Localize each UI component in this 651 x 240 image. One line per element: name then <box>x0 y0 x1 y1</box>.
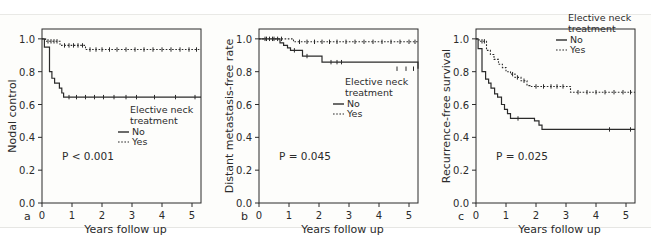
legend-title-line1: Elective neck <box>130 104 194 115</box>
y-tick-label: 1.0 <box>453 34 469 45</box>
p-value-annotation: P = 0.045 <box>279 150 331 162</box>
x-tick-label: 5 <box>406 210 412 221</box>
legend-title-line2: treatment <box>568 23 616 34</box>
x-tick-label: 5 <box>189 210 195 221</box>
x-tick-label: 1 <box>503 210 509 221</box>
y-tick-label: 0.8 <box>453 67 469 78</box>
x-tick-label: 2 <box>316 210 322 221</box>
y-tick-label: 1.0 <box>236 34 252 45</box>
y-tick-label: 0.8 <box>19 67 35 78</box>
x-tick-label: 4 <box>159 210 165 221</box>
x-tick-label: 2 <box>533 210 539 221</box>
x-tick-label: 4 <box>593 210 599 221</box>
x-tick-label: 3 <box>346 210 352 221</box>
y-tick-label: 0.0 <box>236 198 252 209</box>
x-axis-title: Years follow up <box>517 223 600 236</box>
y-axis-title: Nodal control <box>6 79 19 152</box>
y-tick-label: 1.0 <box>19 34 35 45</box>
y-tick-label: 0.6 <box>19 100 35 111</box>
panel-plot-a: 0.00.20.40.60.81.0012345Years follow upN… <box>0 0 217 240</box>
y-axis-title: Recurrence-free survival <box>440 49 453 183</box>
plot-frame <box>476 29 635 203</box>
panel-plot-b: 0.00.20.40.60.81.0012345Years follow upD… <box>217 0 434 240</box>
legend-label-yes: Yes <box>131 136 147 147</box>
legend: Elective necktreatmentNoYes <box>556 12 632 55</box>
x-tick-label: 1 <box>69 210 75 221</box>
y-tick-label: 0.4 <box>453 132 469 143</box>
x-tick-label: 0 <box>39 210 45 221</box>
y-tick-label: 0.8 <box>236 67 252 78</box>
x-axis-title: Years follow up <box>83 223 166 236</box>
y-tick-label: 0.2 <box>19 165 35 176</box>
x-axis-title: Years follow up <box>300 223 383 236</box>
legend-title-line2: treatment <box>345 87 393 98</box>
legend-title-line1: Elective neck <box>568 12 632 23</box>
y-tick-label: 0.2 <box>453 165 469 176</box>
panel-letter: b <box>241 210 248 223</box>
x-tick-label: 3 <box>129 210 135 221</box>
panel-c: 0.00.20.40.60.81.0012345Years follow upR… <box>434 0 651 240</box>
y-tick-label: 0.6 <box>236 100 252 111</box>
x-tick-label: 0 <box>473 210 479 221</box>
x-tick-label: 3 <box>563 210 569 221</box>
y-tick-label: 0.6 <box>453 100 469 111</box>
x-tick-label: 0 <box>256 210 262 221</box>
x-tick-label: 5 <box>623 210 629 221</box>
survival-curve-yes <box>476 39 635 92</box>
y-tick-label: 0.4 <box>236 132 252 143</box>
y-tick-label: 0.0 <box>453 198 469 209</box>
y-tick-label: 0.0 <box>19 198 35 209</box>
legend: Elective necktreatmentNoYes <box>333 76 409 119</box>
legend-title-line1: Elective neck <box>345 76 409 87</box>
p-value-annotation: P = 0.025 <box>496 150 548 162</box>
panel-letter: a <box>24 210 31 223</box>
panel-plot-c: 0.00.20.40.60.81.0012345Years follow upR… <box>434 0 651 240</box>
legend-label-yes: Yes <box>569 44 585 55</box>
panel-b: 0.00.20.40.60.81.0012345Years follow upD… <box>217 0 434 240</box>
legend: Elective necktreatmentNoYes <box>118 104 194 147</box>
survival-curves-figure: 0.00.20.40.60.81.0012345Years follow upN… <box>0 0 651 240</box>
survival-curve-yes <box>42 39 201 50</box>
x-tick-label: 4 <box>376 210 382 221</box>
x-tick-label: 1 <box>286 210 292 221</box>
y-axis-title: Distant metastasis-free rate <box>223 39 236 194</box>
panel-letter: c <box>458 210 464 223</box>
legend-label-yes: Yes <box>346 108 362 119</box>
y-tick-label: 0.4 <box>19 132 35 143</box>
plot-frame <box>259 29 418 203</box>
survival-curve-no <box>259 39 418 69</box>
survival-curve-no <box>476 39 635 130</box>
survival-curve-no <box>42 39 201 97</box>
y-tick-label: 0.2 <box>236 165 252 176</box>
p-value-annotation: P < 0.001 <box>62 150 114 162</box>
survival-curve-yes <box>259 39 418 42</box>
legend-title-line2: treatment <box>130 115 178 126</box>
panel-a: 0.00.20.40.60.81.0012345Years follow upN… <box>0 0 217 240</box>
x-tick-label: 2 <box>99 210 105 221</box>
